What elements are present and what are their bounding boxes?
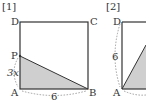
vertex-p-label: P xyxy=(11,50,18,61)
figure-2-label: [2] xyxy=(106,1,120,12)
vertex-a-label-2: A xyxy=(112,87,121,98)
vertex-c-label: C xyxy=(90,16,98,27)
figure-canvas: [1] D C P A B 3x 6 [2] D A 6 xyxy=(0,0,146,102)
dimension-ad-label: 6 xyxy=(112,51,118,62)
point-p xyxy=(19,55,21,57)
dimension-arc-bottom xyxy=(124,91,146,95)
vertex-a-label: A xyxy=(10,87,19,98)
dimension-ap-label: 3x xyxy=(7,67,19,78)
vertex-d-label: D xyxy=(11,16,19,27)
figure-2: [2] D A 6 xyxy=(106,1,146,98)
figure-1-label: [1] xyxy=(2,1,16,12)
vertex-b-label: B xyxy=(89,87,96,98)
dimension-ab-label: 6 xyxy=(51,91,57,102)
figure-1: [1] D C P A B 3x 6 xyxy=(2,1,98,102)
